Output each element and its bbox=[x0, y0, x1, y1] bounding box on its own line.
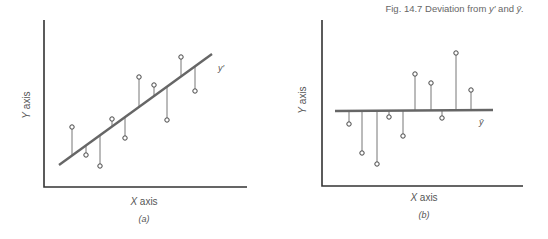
y-axis-label-a: Y axis bbox=[21, 91, 32, 118]
data-point bbox=[440, 116, 444, 120]
data-point bbox=[413, 72, 417, 76]
y-axis-label-b: Y axis bbox=[297, 86, 308, 113]
data-point bbox=[110, 117, 114, 121]
mean-line bbox=[335, 110, 493, 111]
y-axis-word-b: axis bbox=[297, 86, 308, 104]
data-point bbox=[137, 75, 141, 79]
data-point bbox=[193, 89, 197, 93]
panel-a: y′ Y axis X axis (a) bbox=[21, 20, 247, 224]
panel-b: ȳ Y axis X axis (b) bbox=[297, 20, 523, 220]
line-label-b: ȳ bbox=[478, 117, 484, 127]
panel-label-b: (b) bbox=[419, 210, 430, 220]
x-axis-label-a: X axis bbox=[129, 196, 157, 207]
panel-label-a: (a) bbox=[139, 214, 150, 224]
x-axis-var-a: X bbox=[129, 196, 137, 207]
data-point bbox=[360, 151, 364, 155]
x-axis-word-b: axis bbox=[420, 192, 438, 203]
data-point bbox=[454, 51, 458, 55]
data-point bbox=[375, 162, 379, 166]
data-point bbox=[429, 81, 433, 85]
data-point bbox=[123, 136, 127, 140]
regression-line bbox=[59, 54, 212, 165]
data-point bbox=[179, 55, 183, 59]
x-axis-word-a: axis bbox=[140, 196, 158, 207]
deviation-lines-b bbox=[349, 55, 471, 162]
data-points-b bbox=[347, 51, 473, 166]
figure-canvas: y′ Y axis X axis (a) ȳ Y axis X axis (b) bbox=[0, 0, 548, 239]
data-point bbox=[469, 88, 473, 92]
y-axis-var-b: Y bbox=[297, 106, 308, 114]
x-axis-var-b: X bbox=[409, 192, 417, 203]
line-label-a: y′ bbox=[217, 63, 225, 73]
data-point bbox=[401, 134, 405, 138]
y-axis-var-a: Y bbox=[21, 111, 32, 119]
y-axis-word-a: axis bbox=[21, 91, 32, 109]
data-point bbox=[98, 164, 102, 168]
data-point bbox=[152, 83, 156, 87]
x-axis-label-b: X axis bbox=[409, 192, 437, 203]
data-point bbox=[165, 118, 169, 122]
data-point bbox=[387, 115, 391, 119]
data-point bbox=[347, 122, 351, 126]
axes-b bbox=[322, 20, 523, 186]
data-point bbox=[70, 125, 74, 129]
data-point bbox=[84, 153, 88, 157]
